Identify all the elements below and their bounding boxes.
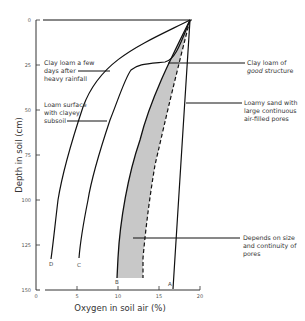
annot-c-line-2: with clayey — [44, 109, 80, 117]
x-tick-20: 20 — [197, 293, 203, 299]
y-axis-title: Depth in soil (cm) — [14, 117, 24, 193]
x-tick-0: 0 — [34, 293, 37, 299]
curve-label-d: D — [49, 261, 53, 267]
annot-b-line-2: good structure — [247, 67, 293, 75]
y-tick-100: 100 — [21, 197, 31, 203]
x-tick-15: 15 — [156, 293, 162, 299]
x-tick-5: 5 — [75, 293, 78, 299]
annot-shade-line-2: and continuity of — [243, 242, 297, 250]
annot-shade-line-3: pores — [243, 250, 260, 258]
annot-d-line-1: Clay loam a few — [44, 59, 94, 67]
annot-a-line-2: large continuous — [244, 107, 297, 115]
annot-a-line-3: air-filled pores — [244, 115, 289, 123]
y-tick-150: 150 — [21, 287, 31, 293]
curve-label-a: A — [168, 281, 172, 287]
curve-d — [51, 20, 190, 259]
y-tick-125: 125 — [21, 242, 31, 248]
annot-b-italic-word: good — [247, 67, 264, 75]
shaded-region — [117, 20, 190, 278]
annot-d-line-3: heavy rainfall — [44, 75, 87, 83]
annotation-b: Clay loam of good structure — [247, 59, 293, 75]
annot-c-line-1: Loam surface — [44, 101, 87, 108]
curve-label-c: C — [77, 262, 81, 268]
annotation-a: Loamy sand with large continuous air-fil… — [244, 99, 297, 123]
x-tick-10: 10 — [115, 293, 121, 299]
annot-shade-line-1: Depends on size — [243, 234, 295, 242]
x-ticks — [77, 286, 200, 290]
annot-c-line-3: subsoil — [44, 117, 66, 124]
y-tick-75: 75 — [25, 152, 31, 158]
oxygen-depth-chart: 0 25 50 75 100 125 150 0 5 10 15 20 Oxyg… — [0, 0, 305, 321]
y-ticks — [36, 20, 40, 245]
y-tick-0: 0 — [28, 17, 31, 23]
annot-d-line-2: days after — [44, 67, 76, 75]
y-tick-25: 25 — [25, 62, 31, 68]
curve-label-b: B — [115, 279, 119, 285]
x-axis-title: Oxygen in soil air (%) — [74, 303, 165, 313]
annot-b-line-1: Clay loam of — [247, 59, 287, 67]
annot-b-rest: structure — [263, 67, 294, 74]
annot-a-line-1: Loamy sand with — [244, 99, 297, 107]
y-tick-50: 50 — [25, 107, 31, 113]
x-tick-labels: 0 5 10 15 20 — [34, 293, 203, 299]
annotation-shade: Depends on size and continuity of pores — [243, 234, 297, 258]
